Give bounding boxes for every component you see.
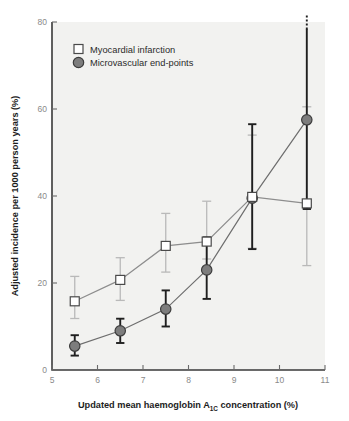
x-tick-label-9: 9 (232, 375, 237, 385)
data-point-mi-5[interactable] (248, 192, 257, 201)
data-point-mv-3[interactable] (161, 304, 171, 314)
data-point-mi-3[interactable] (161, 241, 170, 250)
y-tick-label-60: 60 (38, 104, 48, 114)
y-axis-title: Adjusted incidence per 1000 person years… (10, 96, 20, 297)
data-point-mv-2[interactable] (115, 326, 125, 336)
data-point-mi-2[interactable] (116, 275, 125, 284)
y-tick-label-40: 40 (38, 191, 48, 201)
x-tick-label-6: 6 (95, 375, 100, 385)
data-point-mi-4[interactable] (202, 237, 211, 246)
legend-label-myocardial-infarction: Myocardial infarction (90, 45, 175, 55)
data-point-mv-6[interactable] (302, 115, 312, 125)
y-tick-label-80: 80 (38, 17, 48, 27)
x-axis-title: Updated mean haemoglobin A1C concentrati… (78, 400, 298, 412)
legend-marker-myocardial-infarction (74, 45, 83, 54)
y-tick-label-0: 0 (42, 365, 47, 375)
plot-area-background (52, 22, 325, 370)
chart-figure: 0 20 40 60 80 5 6 7 8 9 10 11 Updated me… (0, 0, 349, 421)
x-tick-label-10: 10 (275, 375, 285, 385)
x-tick-label-11: 11 (321, 375, 330, 385)
x-tick-label-8: 8 (186, 375, 191, 385)
x-axis-title-suffix: concentration (%) (218, 400, 298, 410)
legend-label-microvascular-endpoints: Microvascular end-points (90, 58, 194, 68)
x-tick-label-7: 7 (141, 375, 146, 385)
data-point-mi-6[interactable] (302, 199, 311, 208)
incidence-vs-hba1c-chart: 0 20 40 60 80 5 6 7 8 9 10 11 Updated me… (0, 0, 349, 421)
data-point-mi-1[interactable] (70, 297, 79, 306)
data-point-mv-4[interactable] (202, 265, 212, 275)
x-tick-label-5: 5 (50, 375, 55, 385)
data-point-mv-1[interactable] (70, 341, 80, 351)
y-tick-label-20: 20 (38, 278, 48, 288)
legend-marker-microvascular-endpoints (73, 57, 83, 67)
x-axis-title-prefix: Updated mean haemoglobin A (78, 400, 210, 410)
